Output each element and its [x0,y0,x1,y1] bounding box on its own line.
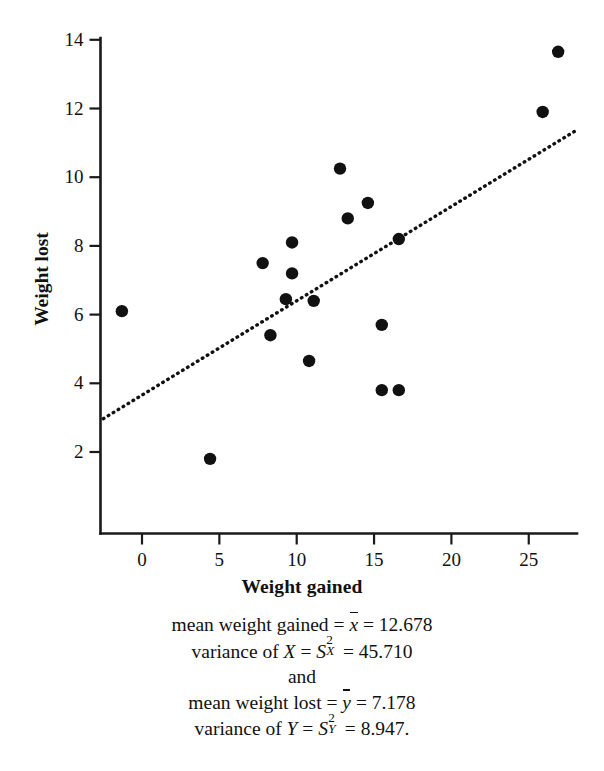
data-point [286,236,298,248]
variable-Y: Y [287,718,298,739]
caption-text: = 8.947. [340,718,410,739]
data-point [303,355,315,367]
caption-text: = 7.178 [351,692,416,713]
data-point [280,293,292,305]
data-point [376,384,388,396]
y-tick-label: 14 [24,30,84,49]
data-point [334,162,346,174]
variance-symbol-S: S [316,640,326,661]
data-point [116,305,128,317]
data-point [286,267,298,279]
caption-line-and: and [0,664,604,690]
data-point [393,233,405,245]
x-tick-label: 10 [267,550,327,569]
caption-text: variance of [195,718,287,739]
x-tick-label: 5 [189,550,249,569]
caption-line-mean-x: mean weight gained = x = 12.678 [0,612,604,638]
x-tick-label: 15 [344,550,404,569]
data-point [342,212,354,224]
caption-text: variance of [192,640,284,661]
figure-caption: mean weight gained = x = 12.678 variance… [0,612,604,742]
caption-text: = 45.710 [338,640,412,661]
axes-group [90,38,578,545]
data-point [536,106,548,118]
variance-x-indices: 2X [326,638,338,658]
scatter-plot-figure: 0510152025 2468101214 Weight gained Weig… [0,0,604,771]
variable-X: X [284,640,296,661]
y-axis-title: Weight lost [31,219,53,339]
data-point [362,197,374,209]
data-point [256,257,268,269]
data-point [393,384,405,396]
caption-line-mean-y: mean weight lost = y = 7.178 [0,690,604,716]
data-point [552,46,564,58]
y-tick-label: 2 [24,442,84,461]
x-bar-symbol: x [349,612,358,638]
variance-symbol-S: S [318,718,328,739]
x-axis-title: Weight gained [0,576,604,598]
caption-line-variance-x: variance of X = S2X = 45.710 [0,638,604,664]
data-point [204,453,216,465]
x-tick-label: 0 [112,550,172,569]
data-point [308,295,320,307]
data-point [376,319,388,331]
x-tick-label: 20 [421,550,481,569]
y-tick-label: 4 [24,373,84,392]
variance-y-indices: 2Y [328,715,340,735]
data-points-group [116,46,565,465]
caption-line-variance-y: variance of Y = S2Y = 8.947. [0,715,604,741]
plot-area: 0510152025 2468101214 Weight gained Weig… [0,0,604,600]
caption-text: = [297,718,318,739]
caption-text: mean weight gained = [172,614,350,635]
y-tick-label: 10 [24,167,84,186]
x-tick-label: 25 [499,550,559,569]
caption-text: mean weight lost = [188,692,342,713]
data-point [264,329,276,341]
plot-canvas [0,0,604,600]
caption-text: = 12.678 [358,614,432,635]
y-tick-label: 12 [24,99,84,118]
caption-text: = [296,640,317,661]
y-bar-symbol: y [342,690,351,716]
